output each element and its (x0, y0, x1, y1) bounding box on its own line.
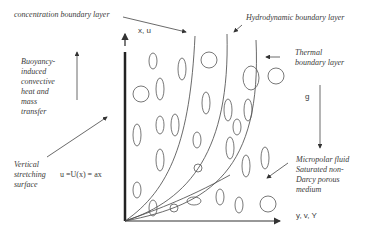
vertical-label-0: Vertical (14, 160, 39, 170)
hydrodynamic-pointer (234, 25, 242, 32)
inner-curve (125, 175, 230, 221)
boundary-layer-diagram (0, 0, 365, 232)
y-axis-label: y, v, Y (296, 211, 317, 221)
buoyancy-label-3: heat and (21, 87, 49, 97)
vertical-surface-pointer (47, 117, 107, 157)
concentration-boundary-curve (125, 36, 195, 221)
buoyancy-label-2: convective (21, 77, 55, 87)
thermal-boundary-curve (125, 40, 256, 221)
vertical-label-1: stretching (14, 170, 46, 180)
micropolar-pointer (267, 163, 288, 178)
concentration-pointer (123, 17, 186, 32)
thermal-label-2: boundary layer (295, 58, 344, 68)
micropolar-label-1: Saturated non- (296, 165, 344, 175)
buoyancy-label-0: Buoyancy- (21, 57, 55, 67)
micropolar-label-2: Darcy porous (296, 175, 340, 185)
x-axis-label: x, u (138, 26, 151, 36)
micropolar-label-3: medium (296, 185, 321, 195)
concentration-label: concentration boundary layer (14, 10, 110, 20)
micropolar-label-0: Micropolar fluid (296, 155, 349, 165)
velocity-equation: u =U(x) = ax (60, 170, 102, 180)
buoyancy-label-1: induced (21, 67, 46, 77)
hydrodynamic-label: Hydrodynamic boundary layer (246, 13, 344, 23)
thermal-label-1: Thermal (295, 48, 322, 58)
buoyancy-label-4: mass (21, 97, 37, 107)
buoyancy-label-5: transfer (21, 107, 46, 117)
vertical-label-2: surface (14, 180, 38, 190)
gravity-label: g (305, 92, 309, 102)
